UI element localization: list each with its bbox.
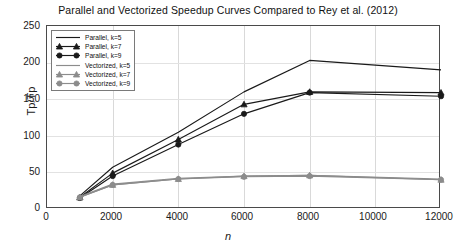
series-3 [77, 90, 443, 201]
data-point-marker [110, 182, 115, 187]
legend-key-icon [55, 33, 81, 42]
data-point-marker [307, 173, 312, 178]
legend[interactable]: Parallel, k=5Parallel, k=7Parallel, k=9V… [51, 30, 135, 91]
x-tick-0: 0 [16, 211, 76, 222]
x-tick-10000: 10000 [343, 211, 403, 222]
legend-label: Parallel, k=9 [85, 51, 121, 60]
data-point-marker [241, 174, 246, 179]
series-line [80, 176, 441, 197]
legend-key-icon [55, 42, 81, 51]
figure: Parallel and Vectorized Speedup Curves C… [0, 0, 456, 247]
legend-key-icon [55, 51, 81, 60]
x-tick-8000: 8000 [278, 211, 338, 222]
legend-item-4[interactable]: Vectorized, k=5 [55, 61, 130, 70]
data-point-marker [175, 136, 181, 142]
legend-item-1[interactable]: Parallel, k=5 [55, 33, 130, 42]
data-point-marker [438, 177, 443, 182]
series-line [80, 92, 441, 197]
data-point-marker [438, 94, 443, 99]
legend-label: Parallel, k=5 [85, 33, 121, 42]
x-tick-4000: 4000 [147, 211, 207, 222]
x-tick-2000: 2000 [81, 211, 141, 222]
data-point-marker [176, 176, 181, 181]
data-point-marker [307, 90, 312, 95]
x-tick-12000: 12000 [409, 211, 456, 222]
legend-label: Parallel, k=7 [85, 42, 121, 51]
x-axis-title: n [0, 230, 456, 242]
data-point-marker [77, 195, 82, 200]
data-point-marker [241, 111, 246, 116]
legend-label: Vectorized, k=9 [85, 79, 130, 88]
data-point-marker [176, 142, 181, 147]
legend-item-6[interactable]: Vectorized, k=9 [55, 79, 130, 88]
legend-item-5[interactable]: Vectorized, k=7 [55, 70, 130, 79]
legend-item-3[interactable]: Parallel, k=9 [55, 51, 130, 60]
legend-key-icon [55, 79, 81, 88]
legend-key-icon [55, 70, 81, 79]
data-point-marker [110, 173, 115, 178]
legend-label: Vectorized, k=7 [85, 70, 130, 79]
legend-label: Vectorized, k=5 [85, 61, 130, 70]
legend-item-2[interactable]: Parallel, k=7 [55, 42, 130, 51]
legend-key-icon [55, 61, 81, 70]
x-tick-6000: 6000 [212, 211, 272, 222]
